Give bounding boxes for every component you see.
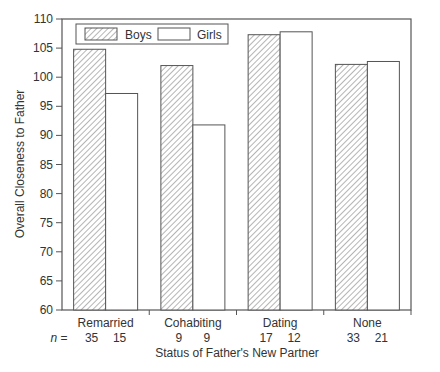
legend-swatch-boys xyxy=(85,28,117,40)
bar-boys-remarried xyxy=(74,49,106,310)
n-girls: 21 xyxy=(375,331,389,345)
bar-girls-none xyxy=(367,61,399,310)
x-axis-label: Status of Father's New Partner xyxy=(155,346,319,360)
y-tick-label: 65 xyxy=(40,274,54,288)
n-boys: 33 xyxy=(347,331,361,345)
y-tick-label: 95 xyxy=(40,99,54,113)
y-tick-label: 80 xyxy=(40,187,54,201)
legend-label-girls: Girls xyxy=(197,28,222,42)
bar-boys-cohabiting xyxy=(161,66,193,310)
y-tick-label: 90 xyxy=(40,128,54,142)
n-girls: 9 xyxy=(204,331,211,345)
legend: BoysGirls xyxy=(76,24,228,44)
y-axis: 6065707580859095100105110 xyxy=(33,12,62,317)
bar-girls-dating xyxy=(280,32,312,310)
y-axis-label: Overall Closeness to Father xyxy=(13,90,27,239)
n-boys: 9 xyxy=(176,331,183,345)
bar-boys-none xyxy=(335,64,367,310)
y-tick-label: 100 xyxy=(33,70,53,84)
y-tick-label: 85 xyxy=(40,158,54,172)
category-label: Cohabiting xyxy=(164,316,221,330)
y-tick-label: 105 xyxy=(33,41,53,55)
legend-label-boys: Boys xyxy=(125,28,152,42)
bars xyxy=(74,32,400,310)
category-label: Remarried xyxy=(78,316,134,330)
x-axis: Remarried3515Cohabiting99Dating1712None3… xyxy=(50,310,411,345)
n-boys: 17 xyxy=(259,331,273,345)
y-tick-label: 70 xyxy=(40,245,54,259)
bar-girls-cohabiting xyxy=(193,125,225,310)
bar-girls-remarried xyxy=(106,93,138,310)
category-label: None xyxy=(353,316,382,330)
bar-boys-dating xyxy=(248,35,280,310)
bar-chart: 6065707580859095100105110 Remarried3515C… xyxy=(0,0,440,372)
y-tick-label: 75 xyxy=(40,216,54,230)
n-girls: 15 xyxy=(113,331,127,345)
n-boys: 35 xyxy=(85,331,99,345)
y-tick-label: 110 xyxy=(34,12,53,26)
category-label: Dating xyxy=(263,316,298,330)
n-girls: 12 xyxy=(287,331,301,345)
legend-swatch-girls xyxy=(158,28,190,40)
y-tick-label: 60 xyxy=(40,303,54,317)
n-label: n = xyxy=(50,331,67,345)
